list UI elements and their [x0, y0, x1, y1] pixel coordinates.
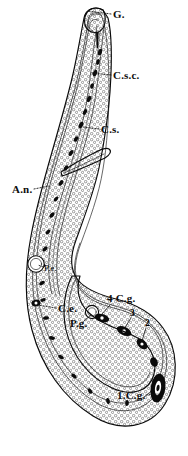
- label-cg4: 4 C.g.: [107, 292, 135, 304]
- label-cg3: 3: [130, 308, 135, 318]
- label-cg1: 1.C.g.: [117, 389, 145, 401]
- label-pe: P.e.: [44, 263, 57, 273]
- label-ce: C.e.: [58, 302, 77, 314]
- label-csc: C.s.c.: [113, 69, 140, 81]
- figure-root: G. C.s.c. C.s. A.n. P.e. C.e. P.g. 4 C.g…: [0, 0, 188, 456]
- label-cg2: 2: [145, 318, 150, 328]
- excretory-pore-vacuole: [28, 256, 44, 272]
- nematode-anatomy-plate: G. C.s.c. C.s. A.n. P.e. C.e. P.g. 4 C.g…: [0, 0, 188, 456]
- label-pg: P.g.: [70, 317, 88, 329]
- label-g: G.: [113, 8, 125, 20]
- label-an: A.n.: [12, 183, 32, 195]
- label-cs: C.s.: [101, 123, 120, 135]
